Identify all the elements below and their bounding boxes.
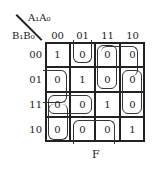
cell-r01-c01: 1 — [70, 67, 95, 92]
row-header-01: 01 — [20, 74, 42, 85]
group-loop — [48, 104, 68, 140]
cell-r11-c11: 1 — [95, 92, 120, 117]
row-header-10: 10 — [20, 124, 42, 135]
col-header-10: 10 — [120, 30, 145, 41]
col-variable-label: A₁A₀ — [28, 13, 50, 23]
output-label: F — [92, 150, 100, 160]
group-loop — [122, 70, 142, 114]
row-header-11: 11 — [20, 99, 42, 110]
group-loop — [73, 40, 92, 63]
col-header-00: 00 — [45, 30, 70, 41]
group-loop — [73, 120, 115, 144]
row-header-00: 00 — [20, 49, 42, 60]
col-header-11: 11 — [95, 30, 120, 41]
cell-r10-c10: 1 — [120, 117, 145, 142]
row-variable-label: B₁B₀ — [12, 31, 35, 41]
cell-r00-c00: 1 — [45, 42, 70, 67]
